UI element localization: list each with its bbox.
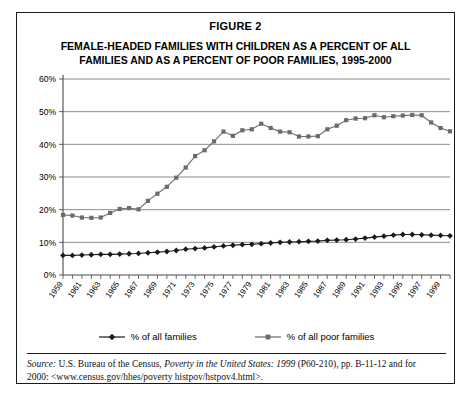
data-point-marker — [108, 211, 112, 215]
x-axis-label: 1979 — [236, 280, 254, 300]
data-point-marker — [136, 251, 142, 257]
data-point-marker — [400, 232, 406, 238]
x-axis-label: 1985 — [292, 280, 310, 300]
x-axis-label: 1963 — [85, 280, 103, 300]
figure-title: FEMALE-HEADED FAMILIES WITH CHILDREN AS … — [35, 39, 436, 67]
data-point-marker — [118, 207, 122, 211]
data-point-marker — [184, 165, 188, 169]
data-point-marker — [70, 213, 74, 217]
data-point-marker — [202, 245, 208, 251]
data-point-marker — [409, 232, 415, 238]
y-axis-label: 50% — [39, 107, 56, 117]
legend-square-marker-icon — [255, 332, 281, 342]
data-point-marker — [183, 246, 189, 252]
x-axis-label: 1997 — [406, 280, 424, 300]
data-point-marker — [306, 134, 310, 138]
data-point-marker — [79, 252, 85, 258]
x-axis-label: 1991 — [349, 280, 367, 300]
data-point-marker — [401, 113, 405, 117]
data-point-marker — [353, 236, 359, 242]
x-axis-label: 1993 — [368, 280, 386, 300]
y-axis-label: 20% — [39, 205, 56, 215]
data-point-marker — [221, 243, 227, 249]
data-point-marker — [325, 127, 329, 131]
data-point-marker — [211, 244, 217, 250]
x-axis-label: 1973 — [179, 280, 197, 300]
data-point-marker — [335, 124, 339, 128]
data-point-marker — [287, 130, 291, 134]
data-point-marker — [381, 233, 387, 239]
data-point-marker — [390, 232, 396, 238]
line-chart-svg: 0%10%20%30%40%50%60%19591961196319651967… — [17, 71, 456, 311]
data-point-marker — [70, 253, 76, 259]
x-axis-label: 1967 — [123, 280, 141, 300]
data-point-marker — [447, 233, 453, 239]
data-point-marker — [362, 235, 368, 241]
data-point-marker — [165, 185, 169, 189]
data-point-marker — [296, 239, 302, 245]
x-axis-label: 1977 — [217, 280, 235, 300]
data-point-marker — [372, 234, 378, 240]
x-axis-label: 1989 — [330, 280, 348, 300]
data-point-marker — [61, 213, 65, 217]
data-point-marker — [107, 252, 113, 258]
data-point-marker — [287, 239, 293, 245]
data-point-marker — [306, 238, 312, 244]
x-axis-label: 1971 — [160, 280, 178, 300]
data-point-marker — [428, 232, 434, 238]
figure-title-line-1: FEMALE-HEADED FAMILIES WITH CHILDREN AS … — [61, 40, 411, 52]
figure-title-line-2: FAMILIES AND AS A PERCENT OF POOR FAMILI… — [79, 54, 391, 66]
data-point-marker — [268, 240, 274, 246]
x-axis-label: 1995 — [387, 280, 405, 300]
y-axis-label: 60% — [39, 74, 56, 84]
data-point-marker — [60, 253, 66, 259]
x-axis-label: 1981 — [255, 280, 273, 300]
data-point-marker — [146, 199, 150, 203]
data-point-marker — [372, 113, 376, 117]
data-point-marker — [154, 249, 160, 255]
source-text-a: U.S. Bureau of the Census, — [56, 359, 164, 369]
source-divider — [27, 353, 446, 354]
data-point-marker — [99, 215, 103, 219]
x-axis-label: 1965 — [104, 280, 122, 300]
data-point-marker — [231, 134, 235, 138]
data-point-marker — [89, 216, 93, 220]
chart-plot-area: 0%10%20%30%40%50%60%19591961196319651967… — [17, 71, 456, 311]
data-point-marker — [343, 237, 349, 243]
data-point-marker — [382, 115, 386, 119]
data-point-marker — [363, 116, 367, 120]
data-point-marker — [277, 239, 283, 245]
x-axis-label: 1987 — [311, 280, 329, 300]
data-point-marker — [230, 242, 236, 248]
data-point-marker — [438, 233, 444, 239]
data-point-marker — [344, 118, 348, 122]
data-point-marker — [221, 129, 225, 133]
x-axis-label: 1969 — [141, 280, 159, 300]
y-axis-label: 30% — [39, 172, 56, 182]
legend-label: % of all families — [131, 331, 197, 342]
data-point-marker — [174, 176, 178, 180]
data-point-marker — [88, 252, 94, 258]
data-point-marker — [269, 126, 273, 130]
data-point-marker — [258, 241, 264, 247]
data-point-marker — [193, 154, 197, 158]
data-point-marker — [212, 139, 216, 143]
x-axis-label: 1959 — [47, 280, 65, 300]
source-publication-title: Poverty in the United States: 1999 — [164, 359, 295, 369]
data-point-marker — [192, 246, 198, 252]
data-point-marker — [259, 122, 263, 126]
data-point-marker — [98, 252, 104, 258]
source-line-2: 2000: <www.census.gov/hhes/poverty histp… — [27, 371, 447, 384]
legend-item[interactable]: % of all poor families — [255, 331, 375, 342]
data-point-marker — [202, 148, 206, 152]
data-point-marker — [297, 134, 301, 138]
x-axis-label: 1975 — [198, 280, 216, 300]
figure-label: FIGURE 2 — [17, 20, 454, 32]
x-axis-label: 1983 — [274, 280, 292, 300]
data-point-marker — [136, 207, 140, 211]
data-point-marker — [278, 129, 282, 133]
data-point-marker — [316, 134, 320, 138]
legend-label: % of all poor families — [287, 331, 375, 342]
legend-item[interactable]: % of all families — [99, 331, 197, 342]
x-axis-label: 1999 — [425, 280, 443, 300]
